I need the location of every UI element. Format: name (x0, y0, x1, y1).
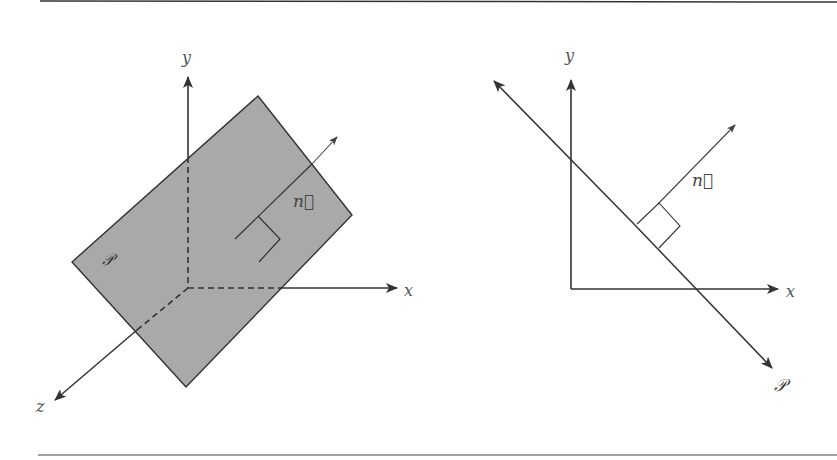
right-angle-mark (637, 203, 680, 248)
y-axis-label: y (564, 46, 575, 65)
y-axis-label: y (181, 48, 192, 67)
plane-label: 𝒫 (774, 375, 791, 395)
plane-line-up (494, 81, 632, 222)
left-panel-3d: y x z n⃗ 𝒫 (35, 48, 413, 416)
normal-label: n⃗ (692, 170, 713, 190)
right-panel-2d: y x n⃗ 𝒫 (494, 46, 795, 395)
z-axis (55, 330, 137, 400)
normal-vector (658, 125, 735, 204)
plane-line-down (632, 222, 772, 368)
plane-p (72, 96, 352, 387)
top-rule (40, 1, 837, 2)
normal-vector-tip (312, 137, 337, 164)
x-axis-label: x (786, 282, 795, 301)
z-axis-label: z (35, 397, 45, 416)
normal-label: n⃗ (293, 191, 314, 211)
x-axis-label: x (404, 281, 413, 300)
plane-normal-diagram: y x z n⃗ 𝒫 y x n⃗ 𝒫 (0, 0, 837, 460)
